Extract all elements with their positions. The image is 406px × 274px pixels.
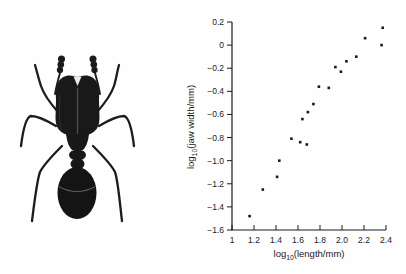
x-tick-label: 2.2 (358, 235, 370, 245)
data-point (276, 176, 279, 179)
data-point (355, 55, 358, 58)
data-point (318, 85, 321, 88)
y-tick-label: −1.6 (207, 225, 224, 235)
data-point (248, 215, 251, 218)
data-point (380, 44, 383, 47)
x-axis-title: log10(length/mm) (274, 248, 345, 261)
x-tick-label: 2.4 (380, 235, 392, 245)
data-point (340, 70, 343, 73)
data-point (364, 37, 367, 40)
y-axis-title: log10(jaw width/mm) (185, 85, 198, 169)
data-point (328, 87, 331, 90)
y-tick-label: −0.4 (207, 86, 224, 96)
data-point (312, 103, 315, 106)
y-tick-label: 0 (219, 40, 224, 50)
data-point (262, 188, 265, 191)
figure-canvas: 11.21.41.61.82.02.22.40.20−0.2−0.4−0.6−0… (0, 0, 406, 274)
x-tick-label: 1.2 (248, 235, 260, 245)
data-point (278, 159, 281, 162)
data-point (307, 111, 310, 114)
scatter-plot: 11.21.41.61.82.02.22.40.20−0.2−0.4−0.6−0… (0, 0, 406, 274)
data-point (381, 26, 384, 29)
data-point (299, 141, 302, 144)
y-tick-label: −0.2 (207, 63, 224, 73)
y-tick-label: −0.6 (207, 109, 224, 119)
x-tick-label: 1.6 (292, 235, 304, 245)
data-point (306, 143, 309, 146)
data-point (345, 60, 348, 63)
data-point (290, 137, 293, 140)
x-tick-label: 1.8 (314, 235, 326, 245)
y-tick-label: −1.4 (207, 202, 224, 212)
data-point (301, 118, 304, 121)
y-tick-label: −1.2 (207, 179, 224, 189)
axis-spines (232, 22, 386, 230)
x-tick-label: 1.4 (270, 235, 282, 245)
x-tick-label: 2.0 (336, 235, 348, 245)
y-tick-label: 0.2 (212, 17, 224, 27)
chart-generated: 11.21.41.61.82.02.22.40.20−0.2−0.4−0.6−0… (207, 17, 392, 245)
y-tick-label: −1.0 (207, 156, 224, 166)
data-point (334, 66, 337, 69)
x-tick-label: 1 (230, 235, 235, 245)
y-tick-label: −0.8 (207, 133, 224, 143)
